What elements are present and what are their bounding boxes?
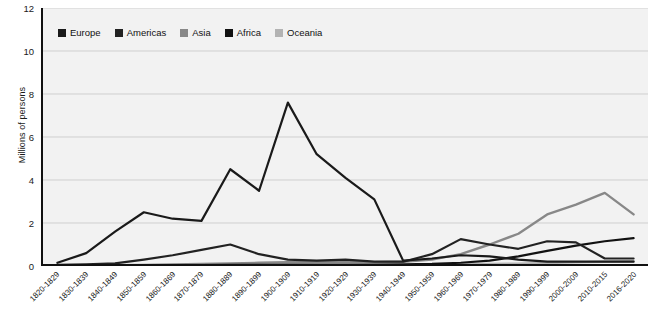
legend-swatch-icon <box>115 29 123 37</box>
plot-svg <box>43 8 648 266</box>
legend-item-asia[interactable]: Asia <box>180 27 210 38</box>
legend-item-europe[interactable]: Europe <box>58 27 101 38</box>
series-line-europe <box>57 103 633 263</box>
legend-label: Americas <box>127 27 167 38</box>
y-tick-label: 4 <box>29 175 34 186</box>
legend-swatch-icon <box>58 29 66 37</box>
legend-label: Africa <box>237 27 261 38</box>
legend-label: Asia <box>192 27 210 38</box>
plot-area <box>41 8 648 266</box>
y-tick-label: 8 <box>29 89 34 100</box>
legend-label: Europe <box>70 27 101 38</box>
y-tick-label: 2 <box>29 218 34 229</box>
legend-item-oceania[interactable]: Oceania <box>275 27 322 38</box>
y-tick-label: 6 <box>29 132 34 143</box>
y-axis-tick-labels: 024681012 <box>0 0 38 316</box>
y-tick-label: 10 <box>23 46 34 57</box>
legend-label: Oceania <box>287 27 322 38</box>
x-axis-tick-labels: 1820-18291830-18391840-18491850-18591860… <box>41 266 648 316</box>
series-line-asia <box>57 193 633 266</box>
legend-item-africa[interactable]: Africa <box>225 27 261 38</box>
chart-legend: EuropeAmericasAsiaAfricaOceania <box>58 27 322 38</box>
legend-swatch-icon <box>180 29 188 37</box>
y-tick-label: 0 <box>29 261 34 272</box>
legend-item-americas[interactable]: Americas <box>115 27 167 38</box>
migration-line-chart: Millions of persons 024681012 EuropeAmer… <box>0 0 652 316</box>
legend-swatch-icon <box>275 29 283 37</box>
y-tick-label: 12 <box>23 3 34 14</box>
legend-swatch-icon <box>225 29 233 37</box>
